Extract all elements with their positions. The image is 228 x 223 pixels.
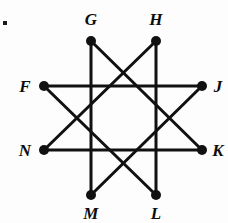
vertex-point-m [86, 190, 96, 200]
edge-gk [91, 41, 202, 150]
vertex-label-m: M [83, 205, 98, 222]
vertex-label-l: L [151, 205, 162, 222]
star-polygon-figure: GHJKLMNF [0, 0, 228, 223]
vertex-label-j: J [214, 78, 223, 95]
vertex-label-g: G [85, 11, 97, 28]
vertex-point-k [197, 145, 207, 155]
vertex-label-f: F [19, 78, 31, 95]
vertex-point-g [86, 36, 96, 46]
vertex-layer [39, 36, 207, 200]
vertex-label-n: N [19, 142, 31, 159]
vertex-label-h: H [149, 11, 162, 28]
edge-layer [44, 41, 202, 195]
vertex-point-l [151, 190, 161, 200]
vertex-label-k: K [212, 142, 224, 159]
edge-hn [44, 41, 156, 150]
edge-jm [91, 86, 202, 195]
vertex-point-h [151, 36, 161, 46]
star-polygon-svg [0, 0, 228, 223]
vertex-point-f [39, 81, 49, 91]
edge-fl [44, 86, 156, 195]
vertex-point-n [39, 145, 49, 155]
vertex-point-j [197, 81, 207, 91]
